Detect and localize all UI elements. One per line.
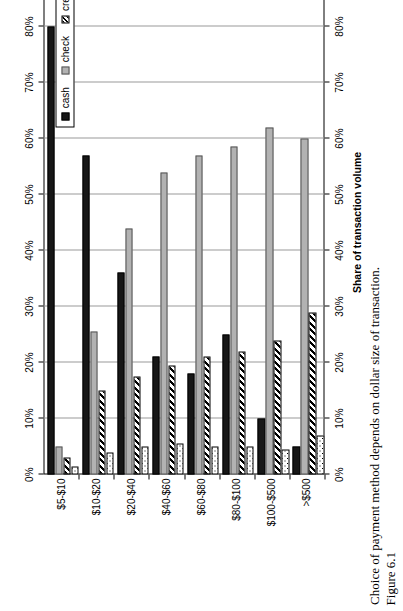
bar-other — [281, 449, 288, 474]
value-axis-label: 10% — [23, 408, 34, 429]
value-axis-tick — [324, 194, 329, 195]
value-axis-label: 20% — [333, 352, 344, 373]
plot-area: 0%0%10%10%20%20%30%30%40%40%50%50%60%60%… — [43, 0, 324, 475]
value-axis-label: 60% — [23, 128, 34, 149]
value-axis-label: 0% — [333, 467, 344, 482]
value-axis-label: 30% — [333, 296, 344, 317]
bar-cash — [117, 273, 124, 475]
bar-check — [300, 139, 307, 475]
bar-credit — [203, 357, 210, 475]
category-tick — [254, 475, 255, 480]
value-axis-tick — [38, 26, 43, 27]
bar-cash — [82, 155, 89, 474]
legend-item: cash — [59, 87, 70, 120]
value-axis-label: 40% — [23, 240, 34, 261]
category-tick — [219, 475, 220, 480]
legend-swatch-check-icon — [61, 66, 69, 74]
bar-other — [141, 447, 148, 475]
value-axis-tick — [324, 26, 329, 27]
bar-credit — [98, 391, 105, 475]
value-axis-tick — [38, 474, 43, 475]
value-axis-tick — [324, 250, 329, 251]
value-axis-label: 80% — [333, 16, 344, 37]
value-axis-tick — [324, 362, 329, 363]
value-axis-tick — [324, 138, 329, 139]
bar-cash — [187, 374, 194, 475]
value-axis-tick — [38, 250, 43, 251]
bar-credit — [63, 458, 70, 475]
value-axis-tick — [324, 306, 329, 307]
bar-other — [106, 452, 113, 474]
bar-cash — [292, 447, 299, 475]
category-tick — [324, 475, 325, 480]
bar-credit — [168, 365, 175, 474]
bar-other — [211, 447, 218, 475]
value-axis-label: 70% — [23, 72, 34, 93]
legend-label: cash — [59, 87, 70, 108]
figure-caption: Figure 6.1 Choice of payment method depe… — [373, 305, 399, 605]
bar-chart-figure: 0%0%10%10%20%20%30%30%40%40%50%50%60%60%… — [35, 0, 368, 531]
category-label: $100-$500 — [266, 479, 277, 533]
category-label: $80-$100 — [231, 479, 242, 533]
value-axis-tick — [38, 138, 43, 139]
figure-page: 0%0%10%10%20%20%30%30%40%40%50%50%60%60%… — [0, 0, 403, 611]
category-tick — [289, 475, 290, 480]
bar-credit — [308, 312, 315, 474]
category-label: $20-$40 — [125, 479, 136, 533]
category-label: >$500 — [301, 479, 312, 533]
value-axis-title: Share of transaction volume — [350, 0, 362, 475]
legend-swatch-cash-icon — [61, 112, 69, 120]
value-axis-tick — [38, 418, 43, 419]
rotated-figure-wrapper: 0%0%10%10%20%20%30%30%40%40%50%50%60%60%… — [0, 0, 403, 611]
bar-cash — [152, 357, 159, 475]
bar-other — [176, 444, 183, 475]
bar-cash — [47, 27, 54, 475]
bar-check — [230, 147, 237, 475]
bar-cash — [257, 419, 264, 475]
legend-label: credit/charge — [59, 0, 70, 11]
value-axis-tick — [38, 306, 43, 307]
value-axis-label: 60% — [333, 128, 344, 149]
category-label: $40-$60 — [160, 479, 171, 533]
bar-credit — [133, 377, 140, 475]
legend-label: check — [59, 36, 70, 62]
value-axis-tick — [38, 82, 43, 83]
figure-number: Figure 6.1 — [384, 552, 399, 605]
bar-check — [195, 155, 202, 474]
bar-check — [265, 127, 272, 474]
legend-item: credit/charge — [59, 0, 70, 23]
bar-credit — [273, 340, 280, 474]
chart-legend: cashcheckcredit/chargeother/debit — [55, 0, 74, 127]
category-tick — [148, 475, 149, 480]
value-axis-tick — [38, 194, 43, 195]
bar-check — [125, 228, 132, 474]
bar-credit — [238, 351, 245, 474]
bar-check — [160, 172, 167, 474]
value-axis-tick — [38, 362, 43, 363]
value-axis-tick — [324, 418, 329, 419]
value-axis-label: 0% — [23, 467, 34, 482]
value-axis-label: 80% — [23, 16, 34, 37]
legend-swatch-credit-icon — [61, 15, 69, 23]
value-axis-label: 50% — [333, 184, 344, 205]
gridline — [43, 138, 324, 139]
legend-item: check — [59, 36, 70, 74]
value-axis-label: 20% — [23, 352, 34, 373]
value-axis-label: 40% — [333, 240, 344, 261]
bar-check — [90, 332, 97, 475]
category-label: $10-$20 — [90, 479, 101, 533]
value-axis-label: 50% — [23, 184, 34, 205]
category-tick — [113, 475, 114, 480]
value-axis-tick — [324, 82, 329, 83]
bar-check — [55, 447, 62, 475]
value-axis-label: 30% — [23, 296, 34, 317]
value-axis-label: 10% — [333, 408, 344, 429]
category-tick — [78, 475, 79, 480]
bar-other — [246, 447, 253, 475]
figure-caption-text: Choice of payment method depends on doll… — [368, 267, 383, 605]
category-tick — [184, 475, 185, 480]
category-label: $5-$10 — [55, 479, 66, 533]
bar-cash — [222, 335, 229, 475]
gridline — [43, 26, 324, 27]
bar-other — [71, 466, 78, 474]
